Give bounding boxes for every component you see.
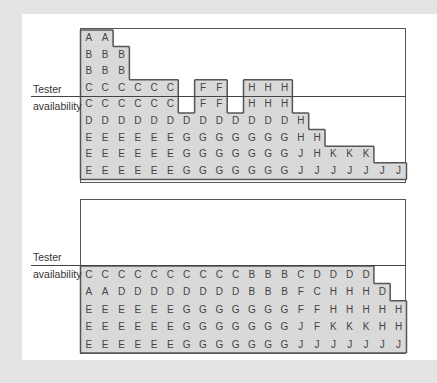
task-cell: B [81,47,98,64]
task-cell: C [97,266,114,284]
task-cell: D [195,113,212,130]
task-cell: C [146,80,163,97]
task-cell: D [341,266,358,284]
task-cell: B [260,266,277,284]
task-cell: C [113,266,130,284]
task-cell: C [178,266,195,284]
task-cell: B [81,63,98,80]
task-cell: E [81,301,98,319]
task-cell: D [178,113,195,130]
task-cell: C [81,96,98,113]
task-cell: G [276,130,293,147]
task-cell: G [178,163,195,180]
task-cell: E [113,146,130,163]
task-cell: E [146,146,163,163]
task-cell: G [178,146,195,163]
task-cell: B [97,47,114,64]
task-cell: K [325,318,342,336]
task-cell: D [227,283,244,301]
task-cell: H [309,130,326,147]
task-cell: B [276,266,293,284]
task-cell: G [195,146,212,163]
task-cell: E [129,146,146,163]
task-cell: H [244,96,261,113]
task-cell: E [162,163,179,180]
task-cell: C [211,266,228,284]
task-cell: C [81,266,98,284]
task-cell: D [129,283,146,301]
task-cell: C [97,96,114,113]
task-cell: J [292,318,309,336]
task-cell: C [81,80,98,97]
task-cell: D [358,266,375,284]
task-cell: B [244,266,261,284]
task-cell: B [97,63,114,80]
task-cell: E [97,301,114,319]
task-cell: E [113,336,130,354]
task-cell: H [276,80,293,97]
task-cell: E [129,163,146,180]
task-cell: G [276,146,293,163]
task-cell: G [195,130,212,147]
task-cell: B [276,283,293,301]
task-cell: F [309,318,326,336]
task-cell: E [97,318,114,336]
task-cell: C [162,266,179,284]
task-cell: J [325,163,342,180]
task-cell: D [309,266,326,284]
top-tester-availability-line [31,96,406,97]
task-cell: E [113,301,130,319]
task-cell: E [97,163,114,180]
task-cell: H [260,80,277,97]
task-cell: J [390,163,407,180]
task-cell: G [211,163,228,180]
task-cell: E [146,163,163,180]
task-cell: E [162,301,179,319]
task-cell: D [97,113,114,130]
task-cell: G [276,336,293,354]
task-cell: E [97,336,114,354]
task-cell: G [211,130,228,147]
task-cell: F [195,80,212,97]
task-cell: H [260,96,277,113]
task-cell: F [211,80,228,97]
task-cell: H [341,301,358,319]
task-cell: G [227,130,244,147]
task-cell: G [244,130,261,147]
task-cell: G [260,146,277,163]
task-cell: J [292,336,309,354]
task-cell: E [81,130,98,147]
task-cell: B [260,283,277,301]
task-cell: H [325,301,342,319]
task-cell: H [341,283,358,301]
task-cell: C [146,266,163,284]
task-cell: H [358,283,375,301]
task-cell: A [81,30,98,47]
task-cell: B [113,63,130,80]
task-cell: E [81,336,98,354]
top-availability-label: availability [33,100,81,112]
task-cell: D [113,283,130,301]
task-cell: G [260,336,277,354]
task-cell: H [390,301,407,319]
task-cell: D [227,113,244,130]
task-cell: H [374,301,391,319]
task-cell: E [146,318,163,336]
task-cell: G [211,301,228,319]
task-cell: E [129,301,146,319]
task-cell: E [129,130,146,147]
task-cell: A [97,30,114,47]
task-cell: D [162,283,179,301]
task-cell: C [309,283,326,301]
task-cell: C [162,80,179,97]
task-cell: D [374,283,391,301]
task-cell: G [276,301,293,319]
task-cell: E [81,318,98,336]
task-cell: D [211,113,228,130]
task-cell: D [178,283,195,301]
task-cell: E [97,130,114,147]
task-cell: G [244,336,261,354]
task-cell: G [244,163,261,180]
task-cell: E [81,146,98,163]
task-cell: G [260,301,277,319]
